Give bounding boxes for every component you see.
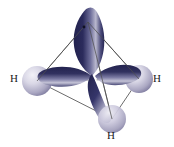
- lobe-top: [74, 7, 105, 76]
- hydrogen-label-bottom: H: [107, 130, 115, 141]
- hydrogen-label-right: H: [153, 73, 161, 84]
- molecular-orbital-figure: H H H: [0, 0, 174, 147]
- lobe-left: [38, 67, 92, 87]
- molecule-canvas: [0, 0, 174, 147]
- sp3-orbital-lobes: [38, 7, 142, 123]
- hydrogen-label-left: H: [10, 73, 18, 84]
- apex-node-dot: [83, 26, 86, 29]
